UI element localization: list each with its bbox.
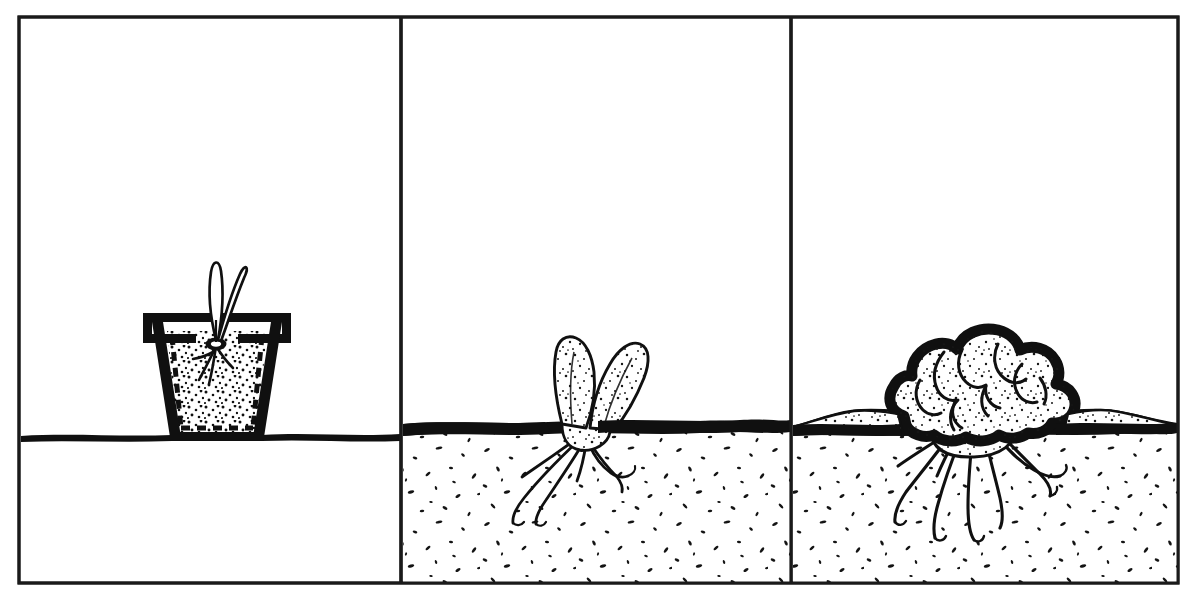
ground-line-panel-3-overlay-right — [1056, 423, 1177, 435]
ground-line-panel-2-overlay — [598, 419, 790, 433]
illustration-canvas — [0, 0, 1192, 598]
ground-line-panel-1-right — [262, 434, 400, 442]
ground-line-panel-3-overlay-left — [793, 424, 902, 436]
ground-line-panel-1 — [21, 435, 172, 442]
illustration-figure: Transplanting and establishment of a see… — [0, 0, 1192, 598]
ground-line-panel-2-overlay-left — [403, 422, 552, 436]
